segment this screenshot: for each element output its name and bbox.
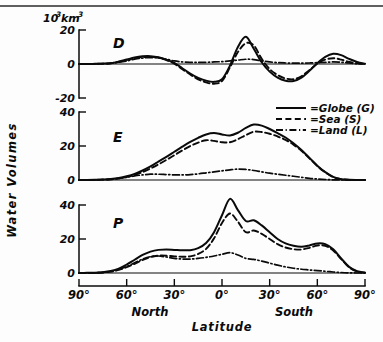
y-axis-title: Water Volumes: [5, 122, 19, 238]
panel-e-letter: E: [113, 129, 123, 145]
x-axis-tick-label: 90°: [354, 288, 376, 302]
panel-p-letter: P: [113, 215, 124, 231]
water-volumes-latitude-chart: Water Volumes 10 3 km 3 20 0 -20 D =Glob: [0, 0, 383, 342]
x-axis-tick-label: 30°: [163, 288, 185, 302]
hemisphere-label-north: North: [132, 305, 169, 319]
panel-p-ytick-label-40: 40: [59, 199, 76, 212]
panel-d-ytick-label-0: 0: [67, 58, 75, 71]
panel-e-ytick-label-40: 40: [59, 106, 76, 119]
figure-container: Water Volumes 10 3 km 3 20 0 -20 D =Glob: [0, 0, 383, 342]
x-axis-tick-label: 60°: [116, 288, 138, 302]
legend-label-land: =Land (L): [310, 124, 368, 136]
panel-e-ytick-label-0: 0: [67, 174, 75, 187]
x-axis-title: Latitude: [192, 320, 253, 334]
x-axis-tick-label: 90°: [68, 288, 90, 302]
unit-tail-exponent: 3: [78, 10, 83, 19]
x-axis-tick-label: 0°: [215, 288, 229, 302]
panel-p-ytick-label-0: 0: [67, 267, 75, 280]
unit-label: 10 3 km 3: [43, 10, 83, 25]
panel-p-ytick-label-20: 20: [60, 233, 76, 246]
x-axis-tick-label: 60°: [306, 288, 328, 302]
panel-d-ytick-label-neg20: -20: [55, 92, 75, 105]
hemisphere-label-south: South: [275, 305, 313, 319]
x-axis-tick-label: 30°: [259, 288, 281, 302]
panel-d-letter: D: [113, 35, 125, 51]
panel-d-ytick-label-20: 20: [60, 24, 76, 37]
panel-e-ytick-label-20: 20: [60, 140, 76, 153]
